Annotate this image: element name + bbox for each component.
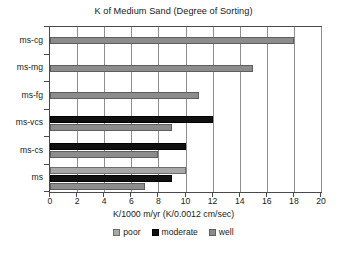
y-axis-label-ms-cs: ms-cs (20, 145, 43, 155)
chart-title: K of Medium Sand (Degree of Sorting) (0, 6, 347, 17)
x-axis-tick-labels: 02468101214161820 (49, 196, 322, 208)
bar-ms-vcs-moderate (50, 116, 213, 123)
y-axis-label-ms-vcs: ms-vcs (16, 117, 43, 127)
legend-swatch-poor-icon (113, 229, 120, 236)
y-axis-label-ms-mg: ms-mg (17, 62, 43, 72)
legend-label-well: well (219, 227, 234, 237)
x-axis-tick-label: 20 (316, 196, 326, 207)
bar-group-ms-vcs (50, 110, 321, 138)
bar-ms-cg-well (50, 37, 294, 44)
x-axis-tick-label: 4 (102, 196, 107, 207)
gridline (321, 27, 322, 192)
x-axis-tick-label: 14 (235, 196, 245, 207)
y-axis-label-ms: ms (32, 172, 43, 182)
bar-ms-mg-well (50, 65, 253, 72)
x-axis-tick-label: 10 (181, 196, 191, 207)
x-axis-tick-label: 8 (156, 196, 161, 207)
legend-entry-moderate[interactable]: moderate (152, 227, 198, 237)
legend-swatch-moderate-icon (152, 229, 159, 236)
y-axis-category-labels: ms-cgms-mgms-fgms-vcsms-csms (0, 26, 47, 193)
x-axis-tick-label: 2 (75, 196, 80, 207)
bars-layer (50, 27, 321, 192)
legend-entry-poor[interactable]: poor (113, 227, 140, 237)
bar-ms-vcs-well (50, 124, 172, 131)
bar-group-ms (50, 165, 321, 193)
bar-ms-poor (50, 167, 186, 174)
x-axis-tick-label: 12 (208, 196, 218, 207)
bar-ms-well (50, 183, 145, 190)
bar-group-ms-mg (50, 55, 321, 83)
x-axis-tick-label: 0 (48, 196, 53, 207)
bar-group-ms-cg (50, 27, 321, 55)
legend-swatch-well-icon (209, 229, 216, 236)
legend-label-poor: poor (123, 227, 140, 237)
plot-area (49, 26, 322, 193)
chart-container: K of Medium Sand (Degree of Sorting) ms-… (0, 0, 347, 257)
bar-group-ms-cs (50, 137, 321, 165)
bar-group-ms-fg (50, 82, 321, 110)
x-axis-tick-label: 18 (289, 196, 299, 207)
x-axis-tick-label: 16 (262, 196, 272, 207)
y-axis-label-ms-fg: ms-fg (22, 90, 43, 100)
bar-ms-moderate (50, 175, 172, 182)
legend-entry-well[interactable]: well (209, 227, 234, 237)
x-axis-title: K/1000 m/yr (K/0.0012 cm/sec) (0, 209, 347, 220)
chart-legend: poormoderatewell (0, 227, 347, 237)
y-axis-label-ms-cg: ms-cg (20, 35, 43, 45)
x-axis-tick-label: 6 (129, 196, 134, 207)
legend-label-moderate: moderate (162, 227, 198, 237)
bar-ms-cs-well (50, 151, 158, 158)
bar-ms-fg-well (50, 92, 199, 99)
bar-ms-cs-moderate (50, 143, 186, 150)
